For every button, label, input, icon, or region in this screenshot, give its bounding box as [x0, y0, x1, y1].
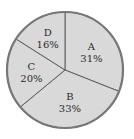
slice-label-c: C — [28, 61, 36, 72]
slice-label-a: A — [87, 41, 96, 52]
slice-percent-b: 33% — [59, 103, 81, 114]
slice-label-b: B — [66, 91, 73, 102]
slice-label-d: D — [44, 27, 52, 38]
pie-svg: A31%B33%C20%D16% — [0, 0, 134, 139]
slice-percent-d: 16% — [37, 39, 59, 50]
slice-percent-c: 20% — [20, 73, 42, 84]
slice-percent-a: 31% — [80, 53, 102, 64]
pie-chart: A31%B33%C20%D16% — [0, 0, 134, 139]
